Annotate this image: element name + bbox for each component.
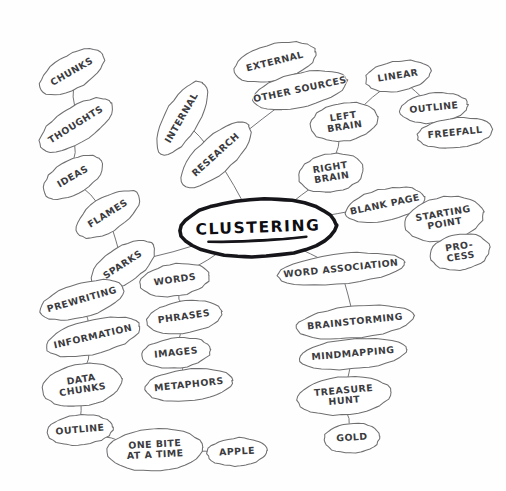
connector-chunks-to-thoughts [73, 90, 75, 105]
node-information[interactable]: INFORMATION [47, 317, 140, 357]
node-layer: CLUSTERINGCHUNKSTHOUGHTSIDEASFLAMESSPARK… [39, 41, 493, 470]
node-mindmapping[interactable]: MINDMAPPING [300, 339, 407, 371]
connector-treasure-hunt-to-gold [348, 415, 350, 424]
connector-linear-to-outline-right [412, 88, 420, 95]
node-phrases[interactable]: PHRASES [147, 300, 223, 334]
connector-clustering-to-words [198, 254, 217, 266]
node-apple[interactable]: APPLE [207, 437, 268, 466]
connector-mindmapping-to-treasure-hunt [348, 369, 350, 376]
node-ideas[interactable]: IDEAS [43, 155, 102, 199]
connector-word-association-to-brainstorming [345, 284, 351, 307]
node-brainstorming[interactable]: BRAINSTORMING [296, 305, 414, 339]
connector-sparks-to-clustering [154, 246, 193, 257]
node-flames[interactable]: FLAMES [76, 191, 140, 239]
node-thoughts[interactable]: THOUGHTS [39, 98, 112, 153]
node-right-brain[interactable]: RIGHTBRAIN [299, 153, 363, 192]
node-linear[interactable]: LINEAR [366, 60, 432, 92]
node-one-bite[interactable]: ONE BITEAT A TIME [107, 429, 203, 471]
node-gold[interactable]: GOLD [324, 423, 380, 453]
node-words[interactable]: WORDS [140, 263, 209, 297]
node-prewriting[interactable]: PREWRITING [40, 279, 124, 320]
connector-research-to-clustering [225, 171, 242, 200]
node-label-gold: GOLD [336, 430, 368, 443]
node-metaphors[interactable]: METAPHORS [145, 369, 233, 402]
node-treasure-hunt[interactable]: TREASUREHUNT [297, 377, 391, 416]
node-internal[interactable]: INTERNAL [157, 81, 208, 155]
node-clustering[interactable]: CLUSTERING [180, 199, 337, 257]
connector-words-to-phrases [179, 296, 181, 302]
node-outline-left[interactable]: OUTLINE [47, 415, 113, 446]
connector-other-sources-to-research [250, 109, 275, 128]
connector-ideas-to-flames [85, 190, 96, 202]
node-label-apple: APPLE [219, 445, 255, 458]
connector-flames-to-sparks [113, 231, 118, 247]
connector-thoughts-to-ideas [74, 146, 75, 158]
connector-information-to-data-chunks [87, 355, 89, 363]
node-left-brain[interactable]: LEFTBRAIN [310, 102, 378, 141]
node-images[interactable]: IMAGES [142, 337, 211, 368]
mindmap-canvas: CLUSTERINGCHUNKSTHOUGHTSIDEASFLAMESSPARK… [0, 0, 506, 491]
connector-prewriting-to-information [87, 316, 88, 320]
connector-internal-to-research [194, 131, 204, 142]
node-word-association[interactable]: WORD ASSOCIATION [277, 252, 405, 285]
mindmap-svg: CLUSTERINGCHUNKSTHOUGHTSIDEASFLAMESSPARK… [0, 0, 506, 491]
node-chunks[interactable]: CHUNKS [39, 48, 105, 94]
connector-linear-to-left-brain [365, 91, 381, 105]
connector-outline-left-to-one-bite [107, 437, 116, 439]
node-data-chunks[interactable]: DATACHUNKS [42, 363, 122, 406]
connector-blank-page-to-clustering [330, 212, 346, 215]
connector-left-brain-to-right-brain [336, 142, 339, 154]
